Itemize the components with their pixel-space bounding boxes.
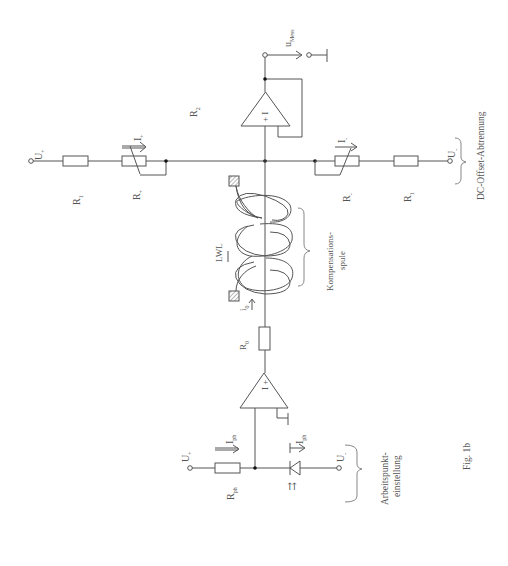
label-rph: Rph: [225, 487, 238, 500]
label-r2: R2: [188, 107, 201, 117]
label-kompensationsspule-2: spule: [337, 251, 347, 270]
label-i-minus: I-: [336, 138, 349, 143]
compensation-coil: [228, 161, 293, 327]
label-iph-left: Iph: [224, 435, 237, 444]
arrow-iph-left-icon: [215, 445, 239, 453]
label-u-plus-bottom: U+: [180, 451, 193, 462]
label-iph-right: Iph: [294, 435, 307, 444]
label-r0: R0: [238, 341, 250, 350]
brace-kompensationsspule: [298, 208, 310, 286]
photodiode-icon: [290, 461, 300, 475]
label-i0: i0: [238, 305, 250, 311]
node-photodiode: [253, 466, 257, 470]
node-r-plus: [164, 159, 168, 163]
label-dc-offset: DC-Offset-Abtrennung: [476, 111, 486, 200]
label-r-plus: R+: [131, 189, 144, 200]
circuit-diagram: U+ R1 R+ I+ R2 R- I- R1 U- uMess + I I +…: [0, 0, 508, 566]
opamp-upper: [241, 49, 327, 161]
resistor-r1-left: [63, 156, 88, 166]
photodiode-light-icon: ⇈: [287, 481, 297, 492]
dc-offset-branch: [29, 142, 453, 175]
terminal-u-plus-bottom: [188, 466, 193, 471]
label-u-mess: uMess: [282, 29, 295, 47]
brace-dc-offset: [455, 138, 466, 184]
resistor-rph: [215, 463, 240, 473]
arrow-i-minus-icon: [335, 143, 357, 151]
terminal-u-minus-top: [448, 159, 453, 164]
label-u-minus-top: U-: [446, 149, 459, 158]
label-arbeitspunkt-1: Arbeitspunkt-: [380, 452, 390, 505]
label-r1-left: R1: [71, 195, 84, 205]
label-opamp-lower-signs: I +: [260, 380, 270, 390]
resistor-r0: [259, 327, 270, 350]
label-i-plus: I+: [132, 134, 145, 141]
label-opamp-upper-signs: + I: [260, 112, 270, 122]
node-output: [263, 77, 267, 81]
label-u-plus-top: U+: [33, 149, 46, 160]
label-u-minus-bottom: U-: [335, 453, 348, 462]
terminal-u-mess-out: [263, 53, 268, 58]
photodiode-branch: [188, 443, 342, 475]
terminal-u-mess-ground: [307, 53, 312, 58]
figure-caption: Fig. 1b: [462, 443, 472, 470]
fiber-end-top: [229, 176, 239, 186]
label-r-minus: R-: [341, 193, 354, 202]
resistor-r1-right: [394, 156, 418, 166]
label-r1-right: R1: [402, 192, 415, 202]
arrow-i-plus-icon: [122, 142, 146, 152]
label-kompensationsspule-1: Kompensations-: [325, 232, 335, 291]
terminal-u-minus-bottom: [337, 466, 342, 471]
fiber-end-bottom: [229, 291, 239, 301]
label-arbeitspunkt-2: einstellung: [392, 455, 402, 497]
label-lwl: LWL: [214, 243, 224, 262]
